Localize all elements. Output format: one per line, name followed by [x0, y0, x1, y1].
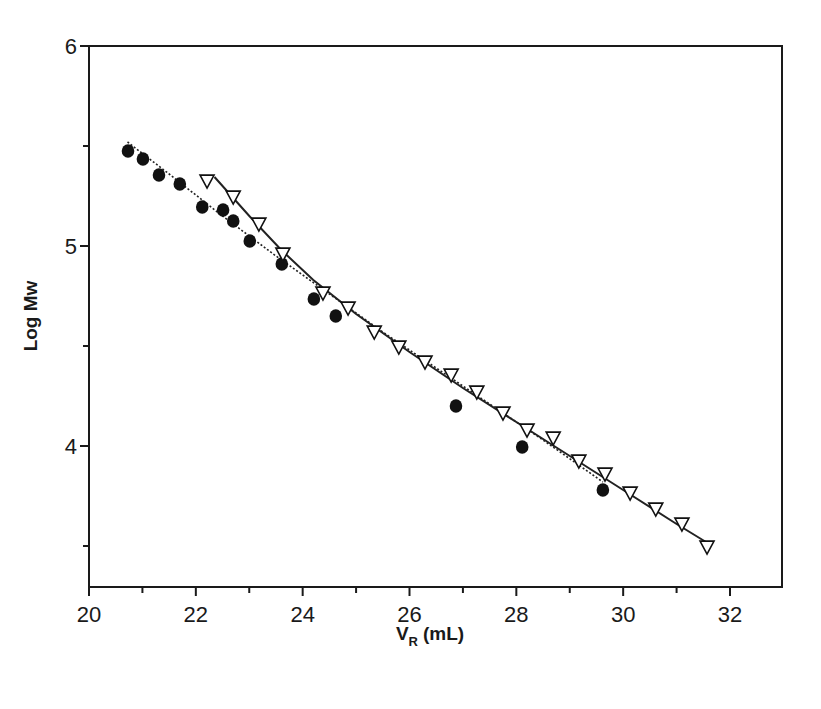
open-triangle-marker: [252, 218, 266, 231]
open-triangle-marker: [418, 356, 432, 369]
x-axis-title-subscript: R: [409, 634, 419, 649]
filled-circle-marker: [217, 203, 230, 217]
x-tick-label: 20: [77, 602, 101, 627]
x-axis-title-main: V: [396, 623, 409, 644]
filled-circle-marker: [516, 440, 529, 454]
x-tick-label: 30: [611, 602, 635, 627]
filled-circle-marker: [122, 144, 135, 158]
open-triangle-marker: [496, 407, 510, 420]
x-tick-label: 32: [718, 602, 742, 627]
x-tick-label: 28: [504, 602, 528, 627]
chart: 20222426283032 456 VR(mL) Log Mw: [0, 0, 821, 709]
y-axis-title: Log Mw: [20, 280, 41, 351]
chart-canvas: 20222426283032 456 VR(mL) Log Mw: [0, 0, 821, 709]
filled-circle-marker: [137, 152, 150, 166]
filled-circle-marker: [227, 214, 240, 228]
filled-circle-marker: [196, 200, 209, 214]
y-tick-label: 4: [65, 434, 77, 459]
filled-circle-marker: [308, 292, 321, 306]
y-tick-label: 5: [65, 234, 77, 259]
filled-circle-marker: [174, 177, 187, 191]
open-triangle-marker: [200, 175, 214, 188]
open-triangle-marker: [367, 326, 381, 339]
open-triangle-marker: [341, 302, 355, 315]
open-triangle-marker: [520, 424, 534, 437]
y-tick-label: 6: [65, 34, 77, 59]
open-triangle-marker: [700, 541, 714, 554]
filled-circle-marker: [329, 309, 342, 323]
x-axis-title-unit: (mL): [423, 623, 464, 644]
x-axis: 20222426283032: [77, 587, 742, 627]
filled-circle-marker: [597, 483, 610, 497]
filled-circle-marker: [153, 168, 166, 182]
filled-circle-marker: [243, 234, 256, 248]
x-axis-title: VR(mL): [396, 623, 464, 649]
plot-frame: [89, 46, 782, 587]
x-tick-label: 24: [290, 602, 314, 627]
y-axis: 456: [65, 34, 89, 546]
fit-lines: [128, 142, 707, 542]
x-tick-label: 22: [184, 602, 208, 627]
filled-circle-marker: [450, 399, 463, 413]
